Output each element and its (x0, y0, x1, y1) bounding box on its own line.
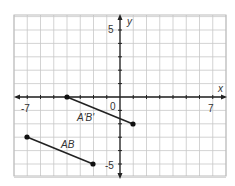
x-axis-label: x (217, 83, 224, 94)
point-b-prime (130, 121, 135, 126)
origin-label: 0 (110, 101, 116, 112)
point-a (24, 134, 29, 139)
segment-ab-label: AB (60, 139, 75, 150)
segment-a-prime-b-prime-label: A'B' (76, 112, 95, 123)
point-a-prime (64, 94, 69, 99)
x-tick-label-max: 7 (208, 103, 214, 114)
y-axis-label: y (126, 16, 133, 27)
y-tick-label-min: -5 (105, 160, 114, 171)
x-axis-left-arrow-icon (14, 95, 20, 100)
coordinate-plane: y x -7 7 0 5 -5 A'B' AB (0, 0, 235, 186)
point-b (90, 161, 95, 166)
x-tick-label-min: -7 (21, 103, 30, 114)
y-tick-label-max: 5 (108, 24, 114, 35)
